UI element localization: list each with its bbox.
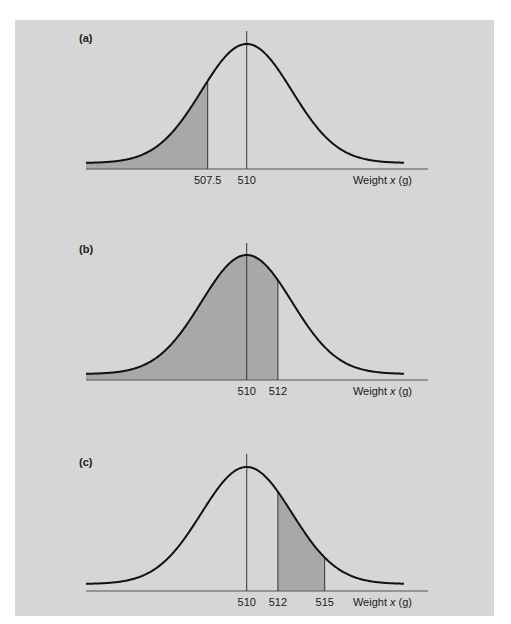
panel-label-c: (c) (79, 456, 93, 468)
x-axis-label-b: Weight x (g) (353, 385, 412, 397)
normal-curve-a (86, 44, 404, 163)
figure-panel: (a) 507.5 510 Weight x (g) (b) 510 512 W… (15, 20, 494, 616)
x-axis-label-a: Weight x (g) (353, 174, 412, 186)
tick-label-510: 510 (238, 385, 256, 397)
x-axis-label-c: Weight x (g) (353, 596, 412, 608)
tick-label-512: 512 (269, 596, 287, 608)
chart-a: (a) 507.5 510 Weight x (g) (79, 31, 428, 186)
normal-distribution-figure: (a) 507.5 510 Weight x (g) (b) 510 512 W… (15, 20, 494, 616)
chart-b: (b) 510 512 Weight x (g) (79, 243, 428, 397)
panel-label-b: (b) (79, 243, 93, 255)
tick-label-510: 510 (238, 174, 256, 186)
shaded-area-a (86, 81, 208, 169)
chart-c: (c) 510 512 515 Weight x (g) (79, 454, 428, 608)
shaded-area-b (86, 255, 278, 380)
tick-label-512: 512 (269, 385, 287, 397)
normal-curve-c (86, 467, 404, 584)
panel-label-a: (a) (79, 32, 93, 44)
tick-label-507-5: 507.5 (194, 174, 222, 186)
tick-label-515: 515 (316, 596, 334, 608)
shaded-area-c (278, 492, 325, 591)
tick-label-510: 510 (238, 596, 256, 608)
